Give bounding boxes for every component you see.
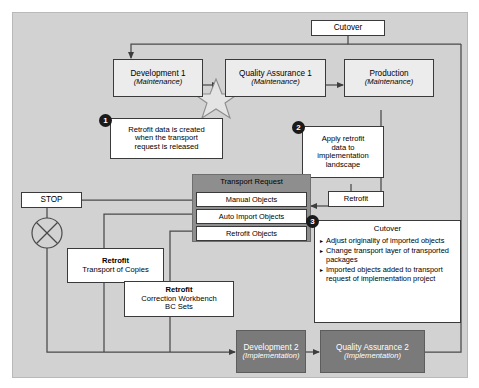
bullet-marker-icon: ▸	[320, 237, 323, 246]
node-retrofit-correction-workbench-line-2: BC Sets	[165, 303, 193, 312]
bullet-marker-icon: ▸	[320, 266, 323, 283]
node-retrofit-transport-of-copies[interactable]: Retrofit Transport of Copies	[67, 248, 164, 283]
panel-cutover-title: Cutover	[315, 225, 460, 234]
node-development-2-sublabel: (Implementation)	[243, 352, 300, 361]
group-transport-request-header: Transport Request	[220, 178, 283, 187]
callout-badge-3: 3	[306, 215, 319, 228]
node-development-2[interactable]: Development 2 (Implementation)	[236, 330, 306, 373]
node-development-1-sublabel: (Maintenance)	[134, 78, 183, 87]
node-retrofit-correction-workbench[interactable]: Retrofit Correction Workbench BC Sets	[124, 281, 234, 317]
callout-2-line-4: landscape	[326, 161, 361, 170]
node-retrofit-right[interactable]: Retrofit	[328, 191, 384, 207]
node-cutover-top[interactable]: Cutover	[311, 20, 385, 36]
node-cutover-top-label: Cutover	[334, 23, 363, 32]
cutover-bullet-3-text: Imported objects added to transport requ…	[326, 266, 455, 283]
node-production[interactable]: Production (Maintenance)	[344, 59, 434, 97]
node-production-sublabel: (Maintenance)	[365, 78, 414, 87]
node-retrofit-right-label: Retrofit	[344, 195, 368, 204]
node-quality-assurance-2-sublabel: (Implementation)	[344, 352, 401, 361]
node-quality-assurance-2[interactable]: Quality Assurance 2 (Implementation)	[320, 330, 425, 373]
cutover-bullet-1: ▸ Adjust originality of imported objects	[320, 237, 455, 246]
cutover-bullet-1-text: Adjust originality of imported objects	[326, 237, 444, 246]
cutover-bullet-2: ▸ Change transport layer of transported …	[320, 247, 455, 264]
node-development-1[interactable]: Development 1 (Maintenance)	[113, 59, 203, 97]
node-quality-assurance-1[interactable]: Quality Assurance 1 (Maintenance)	[225, 59, 326, 97]
callout-badge-1: 1	[99, 114, 112, 127]
transport-item-retrofit-objects[interactable]: Retrofit Objects	[196, 226, 307, 241]
transport-item-manual-objects[interactable]: Manual Objects	[196, 192, 307, 207]
bullet-marker-icon: ▸	[320, 247, 323, 264]
cutover-bullet-3: ▸ Imported objects added to transport re…	[320, 266, 455, 283]
node-quality-assurance-1-sublabel: (Maintenance)	[251, 78, 300, 87]
callout-badge-2: 2	[292, 121, 305, 134]
transport-item-auto-import-objects[interactable]: Auto Import Objects	[196, 209, 307, 224]
node-stop[interactable]: STOP	[21, 192, 82, 208]
cutover-bullet-2-text: Change transport layer of transported pa…	[326, 247, 455, 264]
callout-1[interactable]: Retrofit data is created when the transp…	[110, 118, 223, 159]
node-stop-label: STOP	[40, 195, 62, 204]
node-retrofit-transport-of-copies-body: Transport of Copies	[82, 266, 148, 275]
callout-2[interactable]: Apply retrofit data to implementation la…	[302, 126, 384, 178]
panel-cutover-details[interactable]: Cutover ▸ Adjust originality of imported…	[314, 220, 461, 323]
callout-1-line-3: request is released	[134, 143, 198, 152]
diagram-canvas: Cutover Development 1 (Maintenance) Qual…	[0, 0, 479, 388]
